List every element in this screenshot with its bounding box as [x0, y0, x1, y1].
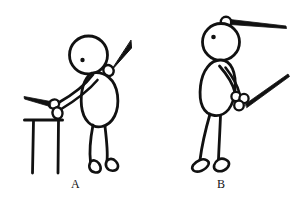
figure-a-hand-grip-lower [51, 106, 63, 119]
figure-b-torso [200, 60, 235, 116]
figure-b-head [203, 24, 240, 61]
figure-a-foot-front [106, 159, 118, 171]
stick-figure-illustration [0, 0, 303, 210]
figure-label-a: A [71, 178, 80, 190]
figure-b-foot-front [214, 159, 229, 172]
figure-a-table-leg-left [33, 121, 34, 174]
figure-a-foot-back [89, 160, 100, 172]
figure-b-eye [211, 35, 216, 40]
figure-b-finger-bottom [234, 101, 244, 111]
figure-a-eye [80, 58, 84, 62]
figure-label-b: B [217, 178, 225, 190]
figure-a-head [70, 36, 108, 74]
figure-panel: A B [0, 0, 303, 210]
figure-a-table-leg-right [58, 121, 59, 174]
